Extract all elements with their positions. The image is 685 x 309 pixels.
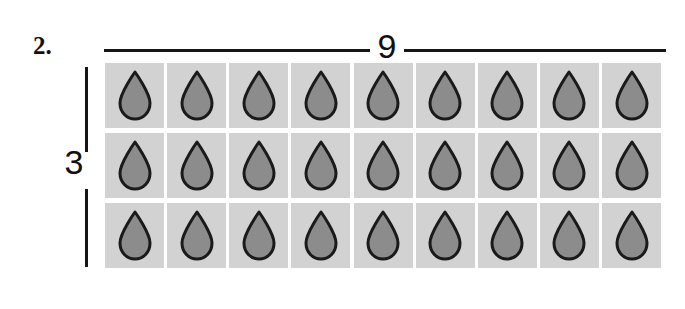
array-cell [167,203,226,268]
water-droplet-icon [239,139,279,192]
column-count-label: 9 [366,29,408,63]
top-bracket-line-right [404,49,666,52]
array-cell [229,63,288,128]
water-droplet-icon [425,139,465,192]
array-cell [354,133,413,198]
water-droplet-icon [301,139,341,192]
array-cell [478,203,537,268]
water-droplet-icon [549,139,589,192]
array-cell [229,203,288,268]
water-droplet-icon [177,209,217,262]
array-row [105,133,661,198]
array-cell [354,203,413,268]
top-bracket-line-left [104,49,370,52]
row-count-label: 3 [54,145,94,179]
array-cell [416,133,475,198]
water-droplet-icon [549,209,589,262]
array-cell [478,133,537,198]
water-droplet-icon [363,139,403,192]
water-droplet-icon [363,209,403,262]
water-droplet-icon [115,209,155,262]
array-cell [105,203,164,268]
array-row [105,203,661,268]
water-droplet-icon [612,69,652,122]
water-droplet-icon [487,209,527,262]
array-cell [167,133,226,198]
left-bracket-line-bottom [85,189,88,267]
array-cell [478,63,537,128]
water-droplet-icon [301,209,341,262]
left-bracket: 3 [78,67,94,267]
array-cell [602,133,661,198]
array-cell [105,133,164,198]
water-droplet-icon [239,209,279,262]
array-grid [105,63,661,268]
array-cell [602,203,661,268]
water-droplet-icon [115,69,155,122]
array-cell [354,63,413,128]
water-droplet-icon [549,69,589,122]
array-cell [291,63,350,128]
array-cell [291,133,350,198]
top-bracket: 9 [104,42,666,60]
array-cell [229,133,288,198]
array-cell [105,63,164,128]
array-cell [416,203,475,268]
worksheet-page: 2. 9 3 [0,0,685,309]
array-row [105,63,661,128]
array-cell [540,63,599,128]
array-cell [602,63,661,128]
water-droplet-icon [487,139,527,192]
water-droplet-icon [487,69,527,122]
left-bracket-line-top [85,67,88,152]
water-droplet-icon [301,69,341,122]
water-droplet-icon [177,139,217,192]
array-cell [416,63,475,128]
water-droplet-icon [239,69,279,122]
water-droplet-icon [363,69,403,122]
problem-number-label: 2. [33,33,52,58]
array-cell [540,203,599,268]
water-droplet-icon [177,69,217,122]
water-droplet-icon [612,209,652,262]
water-droplet-icon [425,69,465,122]
water-droplet-icon [612,139,652,192]
array-cell [167,63,226,128]
array-cell [291,203,350,268]
array-cell [540,133,599,198]
water-droplet-icon [425,209,465,262]
water-droplet-icon [115,139,155,192]
